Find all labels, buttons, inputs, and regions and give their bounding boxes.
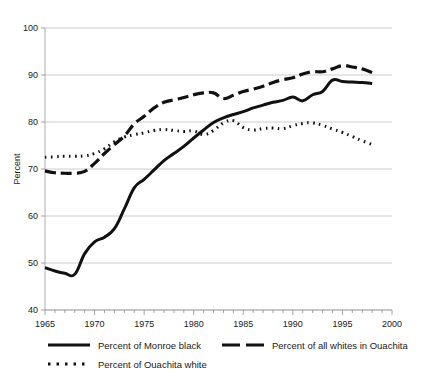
x-tick-label-1965: 1965 — [35, 319, 55, 329]
chart-figure: 100908070605040 196519701975198019851990… — [0, 0, 424, 378]
y-tick-label-90: 90 — [28, 70, 38, 80]
line-chart: 100908070605040 196519701975198019851990… — [0, 0, 424, 378]
y-tick-label-40: 40 — [28, 305, 38, 315]
x-tick-label-1995: 1995 — [332, 319, 352, 329]
x-tick-label-1980: 1980 — [184, 319, 204, 329]
chart-background — [0, 0, 424, 378]
x-tick-label-2000: 2000 — [382, 319, 402, 329]
y-tick-label-60: 60 — [28, 211, 38, 221]
x-tick-label-1990: 1990 — [283, 319, 303, 329]
y-tick-label-100: 100 — [23, 23, 38, 33]
legend-label-1: Percent of all whites in Ouachita — [272, 340, 408, 351]
x-tick-label-1975: 1975 — [134, 319, 154, 329]
x-tick-label-1970: 1970 — [85, 319, 105, 329]
y-tick-label-80: 80 — [28, 117, 38, 127]
x-tick-label-1985: 1985 — [233, 319, 253, 329]
legend-label-0: Percent of Monroe black — [98, 340, 201, 351]
y-tick-label-50: 50 — [28, 258, 38, 268]
legend-label-2: Percent of Ouachita white — [98, 359, 207, 370]
y-tick-label-70: 70 — [28, 164, 38, 174]
y-axis-title: Percent — [12, 153, 22, 185]
